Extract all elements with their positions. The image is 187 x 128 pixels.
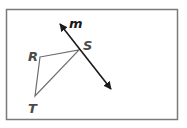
vertex-t-label: T — [28, 101, 38, 116]
vertex-s-label: S — [83, 38, 92, 53]
geometry-diagram: m R S T — [0, 0, 187, 128]
line-m-label: m — [69, 16, 83, 31]
vertex-r-label: R — [28, 49, 38, 64]
